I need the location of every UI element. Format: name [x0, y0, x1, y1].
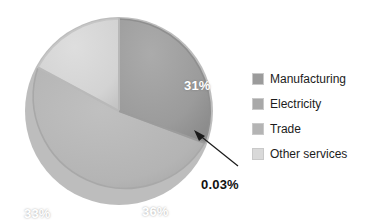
legend-label-other-services: Other services: [270, 148, 347, 160]
pie-chart-figure: 31% 36% 33% 0.03% Manufacturing Electric…: [0, 0, 372, 224]
callout-label-electricity: 0.03%: [201, 177, 239, 192]
slice-label-other-services: 33%: [24, 206, 51, 221]
callout-arrow-head: [194, 130, 205, 141]
legend-item-other-services[interactable]: Other services: [252, 141, 370, 166]
legend-item-trade[interactable]: Trade: [252, 116, 370, 141]
slice-label-manufacturing: 31%: [184, 78, 211, 93]
legend-swatch-other-services: [252, 148, 264, 160]
slice-label-trade: 36%: [142, 204, 169, 219]
legend-item-electricity[interactable]: Electricity: [252, 91, 370, 116]
legend-swatch-trade: [252, 123, 264, 135]
legend-label-electricity: Electricity: [270, 98, 321, 110]
legend-swatch-manufacturing: [252, 73, 264, 85]
legend-label-trade: Trade: [270, 123, 301, 135]
legend: Manufacturing Electricity Trade Other se…: [252, 66, 370, 166]
callout-arrow-icon: [188, 126, 244, 170]
pie-chart: 31% 36% 33%: [24, 16, 214, 206]
pie-svg: [24, 16, 214, 206]
legend-swatch-electricity: [252, 98, 264, 110]
legend-item-manufacturing[interactable]: Manufacturing: [252, 66, 370, 91]
legend-label-manufacturing: Manufacturing: [270, 73, 346, 85]
callout-arrow-line: [198, 134, 238, 166]
